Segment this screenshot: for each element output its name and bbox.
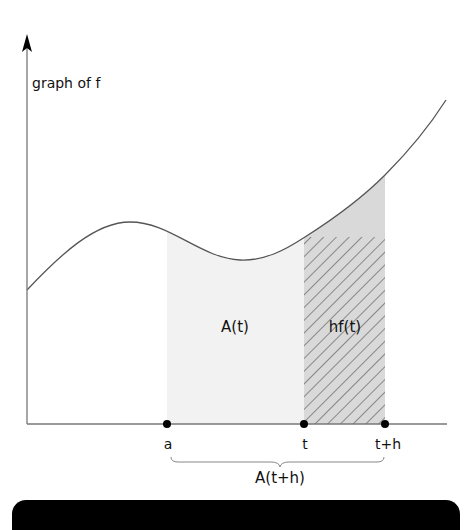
bottom-caption-bar (12, 500, 460, 530)
tick-label-t: t (302, 436, 308, 452)
brace (171, 457, 384, 467)
tick-label-t-plus-h: t+h (375, 436, 401, 452)
tick-label-a: a (164, 436, 173, 452)
y-axis-label: graph of f (32, 75, 101, 91)
label-a-t-plus-h: A(t+h) (255, 469, 305, 487)
point-t-plus-h (381, 420, 389, 428)
point-t (300, 420, 308, 428)
label-hf-t: hf(t) (329, 318, 361, 336)
point-a (163, 420, 171, 428)
label-a-t: A(t) (221, 318, 249, 336)
area-a-to-t (167, 100, 304, 424)
